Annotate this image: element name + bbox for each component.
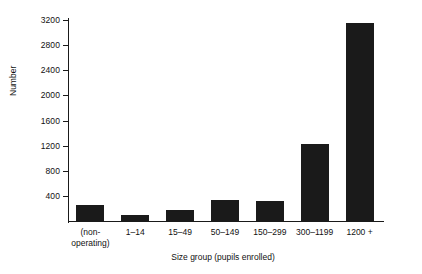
y-tick-mark [63,196,68,197]
x-tick-label: 50–149 [211,227,239,238]
x-tick-label: 15–49 [168,227,192,238]
y-tick-mark [63,171,68,172]
x-axis-title-text: Size group (pupils enrolled) [147,252,274,262]
y-tick-label: 3200 [41,15,60,25]
x-tick-label: 1200 + [346,227,372,238]
x-tick-label: 150–299 [253,227,286,238]
x-tick-label: (non-operating) [71,227,109,248]
x-tick-label-line1: 300–1199 [296,227,333,237]
plot-area: 400800120016002000240028003200 [68,20,382,221]
bar [121,215,149,221]
y-tick-label: 2800 [41,40,60,50]
x-tick-label: 300–1199 [296,227,333,238]
x-tick-label-line1: 1–14 [126,227,145,237]
y-tick-label: 800 [46,166,60,176]
x-tick-label-line1: 15–49 [168,227,192,237]
bar [76,205,104,221]
y-tick-label: 1200 [41,141,60,151]
y-tick-mark [63,45,68,46]
bar [301,144,329,221]
bar [256,201,284,221]
y-tick-mark [63,146,68,147]
y-tick-mark [63,95,68,96]
bar [346,23,374,221]
bar [211,200,239,221]
bar-chart-figure: Number 400800120016002000240028003200 (n… [0,0,422,274]
bar [166,210,194,221]
y-tick-label: 1600 [41,116,60,126]
x-tick-label-line1: 150–299 [253,227,286,237]
x-tick-label-line1: 50–149 [211,227,239,237]
y-tick-label: 2000 [41,90,60,100]
y-tick-label: 2400 [41,65,60,75]
x-tick-label-line1: 1200 + [346,227,372,237]
x-axis-line [68,221,384,222]
y-axis-title: Number [8,66,18,96]
x-tick-label-line2: operating) [71,238,109,249]
x-tick-label-line1: (non- [81,227,101,237]
y-tick-mark [63,121,68,122]
y-tick-label: 400 [46,191,60,201]
y-tick-mark [63,20,68,21]
y-tick-mark [63,70,68,71]
x-tick-label: 1–14 [126,227,145,238]
x-axis-title: Size group (pupils enrolled) [0,252,422,262]
